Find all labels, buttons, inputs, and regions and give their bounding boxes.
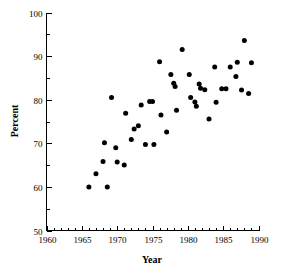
data-point <box>239 88 244 93</box>
data-point <box>109 95 114 100</box>
data-point <box>249 60 254 65</box>
data-point <box>158 112 163 117</box>
data-point <box>129 137 134 142</box>
y-axis-tick-labels: 5060708090100 <box>29 9 43 237</box>
data-point <box>197 82 202 87</box>
y-tick-label-80: 80 <box>34 96 44 106</box>
data-point <box>242 38 247 43</box>
y-tick-label-90: 90 <box>34 52 44 62</box>
data-point <box>246 91 251 96</box>
y-tick-label-70: 70 <box>34 139 44 149</box>
data-point <box>143 142 148 147</box>
data-point <box>164 129 169 134</box>
y-tick-label-60: 60 <box>34 183 44 193</box>
data-point <box>233 74 238 79</box>
scatter-chart-figure: 1960196519701975198019851990 50607080901… <box>0 0 283 272</box>
data-point <box>123 111 128 116</box>
x-tick-label-1970: 1970 <box>109 235 128 245</box>
data-point <box>192 99 197 104</box>
data-point <box>194 104 199 109</box>
data-point <box>180 47 185 52</box>
y-tick-label-100: 100 <box>29 9 43 19</box>
data-point <box>150 99 155 104</box>
data-point <box>101 159 106 164</box>
data-point <box>174 108 179 113</box>
x-tick-label-1985: 1985 <box>215 235 234 245</box>
data-point <box>188 95 193 100</box>
data-point <box>207 116 212 121</box>
data-point <box>86 184 91 189</box>
data-point <box>212 65 217 70</box>
data-point <box>228 65 233 70</box>
data-point <box>132 126 137 131</box>
x-axis-tick-labels: 1960196519701975198019851990 <box>39 235 270 245</box>
data-point <box>198 86 203 91</box>
data-point <box>168 72 173 77</box>
data-point <box>202 87 207 92</box>
data-point <box>136 123 141 128</box>
axes <box>47 13 259 231</box>
x-tick-label-1975: 1975 <box>145 235 164 245</box>
x-axis-title: Year <box>142 254 163 265</box>
data-point <box>105 184 110 189</box>
data-point <box>93 171 98 176</box>
data-points-layer <box>86 38 254 190</box>
data-point <box>214 100 219 105</box>
data-point <box>173 84 178 89</box>
data-point <box>187 72 192 77</box>
x-tick-label-1990: 1990 <box>251 235 270 245</box>
x-tick-label-1965: 1965 <box>74 235 93 245</box>
data-point <box>139 102 144 107</box>
x-tick-label-1980: 1980 <box>180 235 199 245</box>
y-tick-label-50: 50 <box>34 227 44 237</box>
data-point <box>223 86 228 91</box>
plot-canvas: 1960196519701975198019851990 50607080901… <box>0 0 283 272</box>
x-axis-major-ticks <box>48 226 260 231</box>
data-point <box>113 145 118 150</box>
data-point <box>157 59 162 64</box>
data-point <box>115 160 120 165</box>
data-point <box>151 142 156 147</box>
y-axis-title: Percent <box>9 104 20 137</box>
data-point <box>102 140 107 145</box>
data-point <box>122 163 127 168</box>
data-point <box>235 60 240 65</box>
